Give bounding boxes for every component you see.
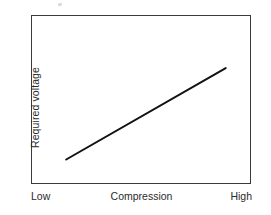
chart-figure: Required voltage Low Compression High [0, 0, 271, 215]
x-axis-label-high: High [230, 189, 252, 203]
plot-area-frame [31, 15, 251, 184]
scan-artifact-speck [58, 2, 63, 6]
y-axis-title: Required voltage [27, 0, 43, 148]
x-axis-title: Compression [111, 189, 173, 203]
x-axis-label-low: Low [31, 189, 50, 203]
x-axis-labels: Low Compression High [31, 189, 252, 203]
